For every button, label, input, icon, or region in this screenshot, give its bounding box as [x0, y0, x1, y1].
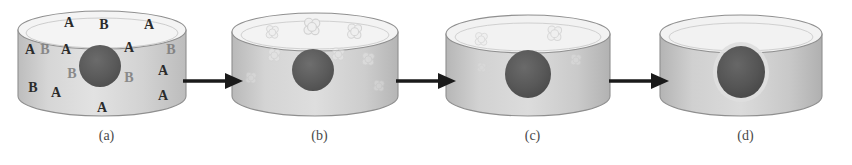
- caption-b: (b): [213, 128, 426, 144]
- cylinder-c: [442, 8, 614, 122]
- caption-c: (c): [426, 128, 639, 144]
- cylinder-d-graphic: [655, 8, 827, 122]
- cylinder-b: [229, 8, 401, 122]
- cylinder-d: [655, 8, 827, 122]
- cylinder-a: ABAABAABABBBAAA: [16, 8, 188, 122]
- arrow-right-icon: [183, 70, 245, 92]
- panel-a: ABAABAABABBBAAA (a): [0, 0, 213, 165]
- cylinder-c-graphic: [442, 8, 614, 122]
- arrow-a-to-b: [183, 70, 245, 92]
- arrow-c-to-d: [609, 70, 671, 92]
- arrow-right-icon: [396, 70, 458, 92]
- arrow-right-icon: [609, 70, 671, 92]
- figure-container: ABAABAABABBBAAA (a): [0, 0, 852, 165]
- cylinder-a-graphic: [16, 8, 188, 122]
- caption-a: (a): [0, 128, 213, 144]
- arrow-b-to-c: [396, 70, 458, 92]
- cylinder-b-graphic: [229, 8, 401, 122]
- caption-d: (d): [639, 128, 852, 144]
